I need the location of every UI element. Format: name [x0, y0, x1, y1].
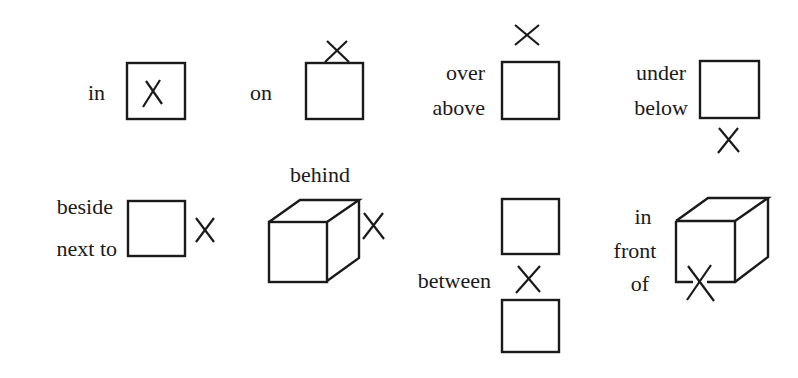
label-of: of: [631, 271, 650, 296]
label-in: in: [634, 204, 651, 229]
square-icon: [127, 63, 185, 119]
x-marker-icon: [515, 25, 539, 45]
label-next-to: next to: [57, 236, 118, 261]
square-icon-top: [502, 199, 559, 254]
item-beside-next-to: beside next to: [57, 194, 215, 261]
label-below: below: [634, 95, 688, 120]
x-marker-icon: [516, 266, 540, 293]
square-icon: [700, 61, 759, 118]
item-on: on: [250, 41, 363, 119]
item-in-front-of: in front of: [614, 198, 768, 301]
square-icon: [128, 201, 185, 256]
item-over-above: over above: [432, 25, 559, 120]
item-between: between: [418, 199, 559, 352]
label-front: front: [614, 238, 657, 263]
label-over: over: [446, 60, 486, 85]
cube-icon: [269, 200, 359, 282]
label-behind: behind: [290, 162, 350, 187]
square-icon: [306, 63, 363, 119]
label-between: between: [418, 268, 491, 293]
item-under-below: under below: [634, 60, 759, 153]
square-icon: [502, 62, 559, 119]
label-on: on: [250, 80, 272, 105]
x-marker-icon: [718, 128, 739, 153]
square-icon-bottom: [502, 300, 559, 352]
item-behind: behind: [269, 162, 384, 282]
label-under: under: [636, 60, 687, 85]
label-above: above: [432, 95, 485, 120]
label-beside: beside: [57, 194, 113, 219]
x-marker-icon: [325, 41, 349, 62]
x-marker-icon: [143, 80, 162, 107]
item-in: in: [88, 63, 185, 119]
x-marker-icon: [196, 218, 214, 242]
x-marker-icon: [363, 213, 384, 239]
prepositions-diagram: in on over above under below: [0, 0, 798, 378]
label-in: in: [88, 80, 105, 105]
